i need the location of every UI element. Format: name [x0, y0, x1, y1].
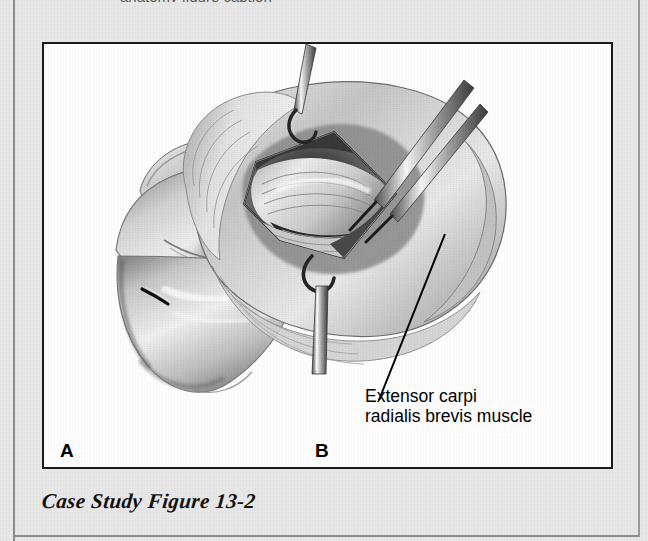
figure-caption: Case Study Figure 13-2 [41, 489, 257, 514]
panel-letter-a: A [60, 441, 74, 460]
page-rule-bottom [13, 535, 638, 537]
cut-off-header-text: anatomy figure caption [120, 0, 450, 2]
figure-page: anatomy figure caption [0, 0, 648, 541]
callout-label-extensor-carpi-radialis-brevis: Extensor carpi radialis brevis muscle [365, 387, 605, 426]
figure-panel-box: A B Extensor carpi radialis brevis muscl… [42, 42, 613, 469]
page-rule-right [638, 0, 640, 537]
page-rule-left [13, 0, 15, 541]
panel-letter-b: B [315, 441, 329, 460]
